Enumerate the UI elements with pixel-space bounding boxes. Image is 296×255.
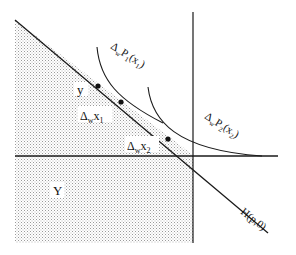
label-hyperplane: H(p,0) [238, 205, 269, 233]
shaded-region-Y [15, 20, 193, 243]
point-y [95, 83, 100, 88]
point-dwx1 [118, 99, 123, 104]
point-dwx2 [165, 136, 170, 141]
label-region-Y: Y [53, 183, 63, 198]
label-P2: ΔwP2(x2) [201, 110, 242, 143]
label-y: y [77, 82, 84, 97]
label-P1: ΔwP1(x1) [107, 40, 148, 73]
diagram: y Δwx1 Δwx2 ΔwP1(x1) ΔwP2(x2) Y H(p,0) [0, 0, 296, 255]
